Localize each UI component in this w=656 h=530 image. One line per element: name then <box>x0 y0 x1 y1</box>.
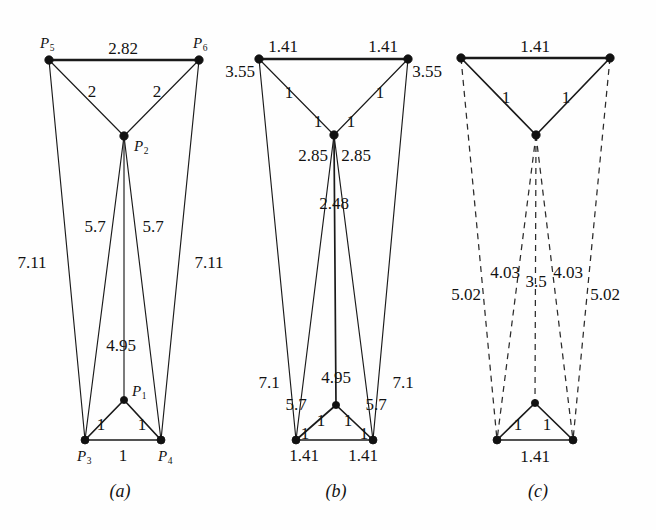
node-c-C5 <box>457 54 465 62</box>
point-label-index: 4 <box>168 456 173 466</box>
node-b-B3 <box>292 436 300 444</box>
point-label-index: 3 <box>87 456 92 466</box>
node-c-C3 <box>493 436 501 444</box>
edge-b-B2-B1 <box>334 135 336 405</box>
edge-length-label: 5.7 <box>84 218 105 235</box>
edge-c-C2-C1 <box>535 135 536 403</box>
edge-length-label: 1 <box>376 84 385 101</box>
node-c-C2 <box>532 131 540 139</box>
point-label-letter: P <box>158 448 167 464</box>
edge-length-label: 5.02 <box>590 286 620 303</box>
edge-length-label: 2.85 <box>341 147 371 164</box>
edge-length-label: 1 <box>502 89 511 106</box>
edge-length-label: 1.41 <box>348 447 378 464</box>
panel-caption-c: (c) <box>528 482 548 500</box>
node-a-P3 <box>81 436 89 444</box>
edge-length-label: 5.7 <box>365 396 386 413</box>
edge-length-label: 4.95 <box>106 337 136 354</box>
edge-length-label: 1.41 <box>520 38 550 55</box>
edge-length-label: 1 <box>314 113 323 130</box>
panel-caption-b: (b) <box>326 482 347 500</box>
point-label-index: 6 <box>203 43 208 53</box>
edge-length-label: 1 <box>97 416 106 433</box>
edge-length-label: 1 <box>317 412 326 429</box>
edge-length-label: 3.55 <box>225 63 255 80</box>
edge-c-C6-C2 <box>536 58 610 135</box>
node-a-P5 <box>45 56 53 64</box>
edge-length-label: 1 <box>543 416 552 433</box>
node-a-P2 <box>120 132 128 140</box>
edge-c-C5-C2 <box>461 58 536 135</box>
edge-length-label: 1.41 <box>368 38 398 55</box>
edge-a-P5-P2 <box>49 60 124 136</box>
point-label-letter: P <box>193 35 202 51</box>
edge-b-B6-B2 <box>334 59 408 135</box>
node-b-B6 <box>404 55 412 63</box>
edge-a-P5-P3 <box>49 60 85 440</box>
edge-length-label: 2 <box>88 83 97 100</box>
edge-length-label: 2 <box>153 83 162 100</box>
edge-b-B5-B2 <box>259 59 334 135</box>
edge-a-P6-P2 <box>124 60 199 136</box>
point-label-letter: P <box>77 448 86 464</box>
edge-length-label: 2.48 <box>319 195 349 212</box>
edge-c-C5-C3 <box>461 58 497 440</box>
edge-length-label: 1 <box>360 425 369 442</box>
edge-length-label: 1 <box>285 84 294 101</box>
edge-length-label: 1 <box>119 447 128 464</box>
edge-length-label: 5.02 <box>451 286 481 303</box>
point-label-index: 5 <box>50 43 55 53</box>
edge-length-label: 5.7 <box>285 396 306 413</box>
edge-length-label: 1.41 <box>289 447 319 464</box>
point-label-P4: P4 <box>158 449 172 464</box>
point-label-P3: P3 <box>77 449 91 464</box>
point-label-P6: P6 <box>193 36 207 51</box>
edge-length-label: 1.41 <box>268 38 298 55</box>
edge-length-label: 1 <box>344 412 353 429</box>
edge-length-label: 7.11 <box>194 254 223 271</box>
edge-c-C6-C4 <box>573 58 610 440</box>
point-label-letter: P <box>132 383 141 399</box>
edge-length-label: 1 <box>138 416 147 433</box>
node-b-B2 <box>330 131 338 139</box>
edge-length-label: 3.55 <box>412 63 442 80</box>
edge-length-label: 7.1 <box>392 374 413 391</box>
edge-length-label: 5.7 <box>142 218 163 235</box>
edge-length-label: 7.11 <box>17 254 46 271</box>
point-label-P2: P2 <box>134 139 148 154</box>
edge-length-label: 4.03 <box>553 264 583 281</box>
edge-length-label: 1 <box>301 425 310 442</box>
panel-caption-a: (a) <box>110 482 131 500</box>
edge-length-label: 3.5 <box>525 273 546 290</box>
node-a-P4 <box>157 436 165 444</box>
edge-length-label: 2.85 <box>298 147 328 164</box>
edge-length-label: 4.03 <box>490 264 520 281</box>
point-label-letter: P <box>40 35 49 51</box>
point-label-letter: P <box>134 138 143 154</box>
node-a-P6 <box>195 56 203 64</box>
node-b-B4 <box>369 436 377 444</box>
node-c-C6 <box>606 54 614 62</box>
edge-a-P6-P4 <box>161 60 199 440</box>
node-c-C4 <box>569 436 577 444</box>
node-b-B5 <box>255 55 263 63</box>
node-a-P1 <box>120 396 127 403</box>
point-label-P1: P1 <box>132 384 146 399</box>
point-label-index: 1 <box>142 391 147 401</box>
edge-a-P2-P3 <box>85 136 124 440</box>
point-label-index: 2 <box>144 146 149 156</box>
edge-c-C1-C4 <box>535 403 573 440</box>
node-c-C1 <box>531 399 538 406</box>
edge-length-label: 2.82 <box>108 40 138 57</box>
edge-length-label: 1 <box>562 89 571 106</box>
edge-length-label: 4.95 <box>321 369 351 386</box>
figure-root: 2.82227.117.115.75.74.95111P1P2P3P4P5P6(… <box>0 0 656 530</box>
edge-length-label: 1.41 <box>520 448 550 465</box>
edge-length-label: 1 <box>514 416 523 433</box>
point-label-P5: P5 <box>40 36 54 51</box>
edge-length-label: 7.1 <box>258 374 279 391</box>
node-b-B1 <box>332 401 339 408</box>
edge-length-label: 1 <box>347 113 356 130</box>
